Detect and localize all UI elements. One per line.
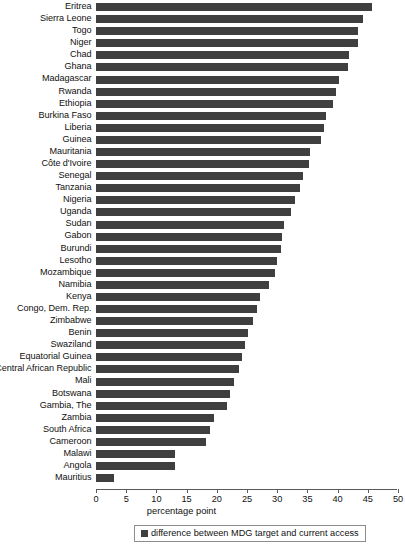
category-label: Swaziland bbox=[50, 339, 91, 351]
bar bbox=[96, 100, 333, 108]
bar bbox=[96, 402, 228, 410]
bar bbox=[96, 39, 359, 47]
bar bbox=[96, 76, 339, 84]
x-axis-tick-label: 35 bbox=[302, 494, 312, 504]
bar bbox=[96, 414, 215, 422]
bar-row: Senegal bbox=[96, 170, 398, 182]
x-axis-tick-label: 5 bbox=[124, 494, 129, 504]
bar-row: Swaziland bbox=[96, 339, 398, 351]
bar-row: Mauritius bbox=[96, 472, 398, 484]
bar-row: Angola bbox=[96, 460, 398, 472]
x-axis-tick bbox=[398, 489, 399, 493]
bar bbox=[96, 245, 281, 253]
category-label: Sierra Leone bbox=[40, 13, 91, 25]
bar-row: Mali bbox=[96, 375, 398, 387]
category-label: Kenya bbox=[66, 291, 92, 303]
bar bbox=[96, 450, 176, 458]
bar bbox=[96, 353, 242, 361]
bar-row: Gabon bbox=[96, 230, 398, 242]
category-label: Chad bbox=[70, 49, 92, 61]
bar bbox=[96, 474, 114, 482]
bar bbox=[96, 426, 211, 434]
bar bbox=[96, 15, 364, 23]
x-axis-tick bbox=[96, 489, 97, 493]
category-label: Equatorial Guinea bbox=[20, 351, 92, 363]
bar bbox=[96, 305, 257, 313]
legend-label: difference between MDG target and curren… bbox=[151, 528, 359, 538]
category-label: Zambia bbox=[61, 412, 91, 424]
bar-row: Mozambique bbox=[96, 267, 398, 279]
x-axis-tick bbox=[187, 489, 188, 493]
bar bbox=[96, 136, 321, 144]
x-axis-tick-label: 45 bbox=[363, 494, 373, 504]
category-label: Congo, Dem. Rep. bbox=[17, 303, 92, 315]
x-axis-tick-label: 40 bbox=[332, 494, 342, 504]
bar-row: Rwanda bbox=[96, 86, 398, 98]
bar bbox=[96, 257, 277, 265]
bar bbox=[96, 378, 235, 386]
bar bbox=[96, 233, 282, 241]
bar-row: Liberia bbox=[96, 122, 398, 134]
x-axis-tick-label: 20 bbox=[212, 494, 222, 504]
bar bbox=[96, 365, 240, 373]
category-label: Madagascar bbox=[42, 73, 92, 85]
bar bbox=[96, 27, 359, 35]
bar bbox=[96, 51, 350, 59]
bar-row: Burundi bbox=[96, 243, 398, 255]
bar-row: Ethiopia bbox=[96, 98, 398, 110]
category-label: Senegal bbox=[58, 170, 91, 182]
x-axis-tick bbox=[156, 489, 157, 493]
category-label: Guinea bbox=[62, 134, 91, 146]
bar bbox=[96, 269, 276, 277]
category-label: Côte d'Ivoire bbox=[41, 158, 91, 170]
category-label: Ethiopia bbox=[59, 98, 91, 110]
x-axis-title: percentage point bbox=[0, 506, 405, 516]
legend-swatch-icon bbox=[141, 530, 148, 537]
bar-row: Ghana bbox=[96, 61, 398, 73]
bar-row: Uganda bbox=[96, 206, 398, 218]
bar bbox=[96, 63, 348, 71]
x-axis-tick-label: 50 bbox=[393, 494, 403, 504]
category-label: Namibia bbox=[58, 279, 91, 291]
bar-row: Eritrea bbox=[96, 1, 398, 13]
x-axis-tick bbox=[217, 489, 218, 493]
bar-row: Sudan bbox=[96, 218, 398, 230]
bar-row: Malawi bbox=[96, 448, 398, 460]
bar bbox=[96, 329, 248, 337]
x-axis-tick-label: 15 bbox=[181, 494, 191, 504]
x-axis-tick bbox=[247, 489, 248, 493]
category-label: Togo bbox=[72, 25, 92, 37]
bar-row: Congo, Dem. Rep. bbox=[96, 303, 398, 315]
bar bbox=[96, 172, 303, 180]
x-axis-tick-label: 10 bbox=[151, 494, 161, 504]
bar bbox=[96, 438, 207, 446]
bar-row: Burkina Faso bbox=[96, 110, 398, 122]
category-label: Tanzania bbox=[55, 182, 91, 194]
category-label: Benin bbox=[68, 327, 91, 339]
bar-row: Togo bbox=[96, 25, 398, 37]
bar-row: Benin bbox=[96, 327, 398, 339]
bar-row: Sierra Leone bbox=[96, 13, 398, 25]
category-label: Central African Republic bbox=[0, 363, 92, 375]
category-label: Ghana bbox=[64, 61, 91, 73]
bar bbox=[96, 293, 261, 301]
x-axis-tick-label: 25 bbox=[242, 494, 252, 504]
bar bbox=[96, 208, 291, 216]
bar-row: Cameroon bbox=[96, 436, 398, 448]
bar-row: Central African Republic bbox=[96, 363, 398, 375]
x-axis-tick bbox=[307, 489, 308, 493]
bar-row: Gambia, The bbox=[96, 400, 398, 412]
category-label: Cameroon bbox=[49, 436, 91, 448]
category-label: Liberia bbox=[65, 122, 92, 134]
x-axis-tick bbox=[126, 489, 127, 493]
x-axis-tick-label: 0 bbox=[93, 494, 98, 504]
bar-row: Niger bbox=[96, 37, 398, 49]
bar-row: Lesotho bbox=[96, 255, 398, 267]
chart-legend: difference between MDG target and curren… bbox=[134, 525, 366, 542]
category-label: Angola bbox=[63, 460, 91, 472]
bar bbox=[96, 160, 309, 168]
x-axis-tick bbox=[277, 489, 278, 493]
category-label: Sudan bbox=[65, 218, 91, 230]
x-axis-title-text: percentage point bbox=[147, 506, 216, 516]
bar-row: Chad bbox=[96, 49, 398, 61]
